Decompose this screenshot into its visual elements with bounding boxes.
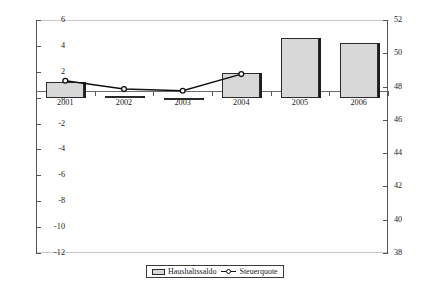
- legend-item-haushaltssaldo: Haushaltssaldo: [152, 268, 216, 276]
- chart-container: 6420-2-4-6-8-10-12 5250484644424038 2001…: [0, 0, 443, 289]
- right-axis-tick: [383, 220, 388, 221]
- right-axis-tick-label: 40: [394, 216, 402, 224]
- right-axis-tick-label: 38: [394, 249, 402, 257]
- left-axis-tick-label: -6: [58, 171, 65, 179]
- right-axis-tick: [383, 186, 388, 187]
- legend-bar-swatch-icon: [152, 269, 165, 275]
- left-axis-tick-label: 4: [61, 42, 65, 50]
- left-axis-tick: [36, 46, 41, 47]
- x-axis-tick: [153, 91, 154, 96]
- chart-title: [0, 0, 443, 8]
- bar: [46, 82, 84, 98]
- right-axis-tick: [383, 87, 388, 88]
- legend-item-steuerquote: Steuerquote: [221, 268, 277, 276]
- right-axis-tick-label: 46: [394, 116, 402, 124]
- plot-bottom-rule: [36, 252, 389, 253]
- right-axis-tick-label: 48: [394, 83, 402, 91]
- left-axis-line: [36, 20, 37, 253]
- left-axis-tick-label: -10: [54, 223, 65, 231]
- left-axis-tick-label: -12: [54, 249, 65, 257]
- legend-line-marker-icon: [221, 268, 236, 275]
- left-axis-tick: [36, 201, 41, 202]
- bar: [340, 43, 378, 98]
- plot-top-rule: [36, 20, 389, 21]
- right-axis-tick: [383, 153, 388, 154]
- right-axis-tick: [383, 120, 388, 121]
- right-axis-line: [387, 20, 388, 253]
- right-axis-tick-label: 50: [394, 49, 402, 57]
- right-axis-tick-label: 42: [394, 182, 402, 190]
- left-axis-tick: [36, 149, 41, 150]
- x-axis-tick: [212, 91, 213, 96]
- legend-line-label: Steuerquote: [239, 268, 277, 276]
- bar: [281, 38, 319, 98]
- chart-legend: Haushaltssaldo Steuerquote: [146, 265, 284, 278]
- left-axis-tick-label: 6: [61, 16, 65, 24]
- bar: [222, 73, 260, 98]
- x-axis-tick: [388, 91, 389, 96]
- right-axis-tick-label: 44: [394, 149, 402, 157]
- right-axis-tick: [383, 253, 388, 254]
- x-axis-tick: [95, 91, 96, 96]
- left-axis-tick: [36, 20, 41, 21]
- x-axis-label: 2002: [101, 99, 147, 107]
- left-axis-tick: [36, 98, 41, 99]
- bar: [164, 98, 202, 101]
- right-axis-tick: [383, 53, 388, 54]
- left-axis-tick: [36, 227, 41, 228]
- right-axis-tick: [383, 20, 388, 21]
- left-axis-tick-label: -4: [58, 145, 65, 153]
- x-axis-tick: [329, 91, 330, 96]
- left-axis-tick: [36, 175, 41, 176]
- left-axis-tick: [36, 124, 41, 125]
- left-axis-tick: [36, 72, 41, 73]
- x-axis-label: 2001: [42, 99, 88, 107]
- x-axis-label: 2005: [277, 99, 323, 107]
- left-axis-tick-label: 2: [61, 68, 65, 76]
- left-axis-tick-label: -2: [58, 120, 65, 128]
- x-axis-label: 2004: [218, 99, 264, 107]
- x-axis-label: 2006: [336, 99, 382, 107]
- x-axis-tick: [271, 91, 272, 96]
- left-axis-tick: [36, 253, 41, 254]
- left-axis-tick-label: -8: [58, 197, 65, 205]
- bar: [105, 96, 143, 98]
- right-axis-tick-label: 52: [394, 16, 402, 24]
- legend-bar-label: Haushaltssaldo: [168, 268, 216, 276]
